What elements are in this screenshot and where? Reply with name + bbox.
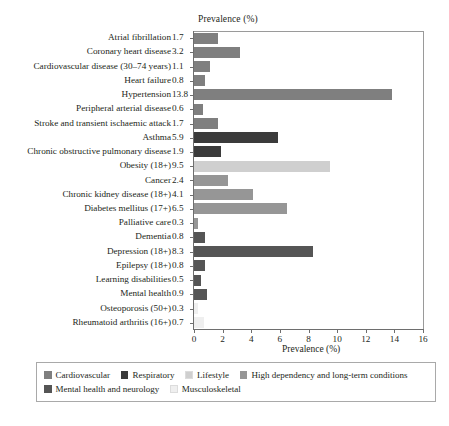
legend-swatch-icon <box>170 385 178 393</box>
legend-swatch-icon <box>44 371 52 379</box>
category-value: 1.9 <box>172 146 191 157</box>
bar-row <box>193 102 424 116</box>
bar-row <box>193 259 424 273</box>
bar-row <box>193 287 424 301</box>
category-value-column: 1.73.21.10.813.80.61.75.91.99.52.44.16.5… <box>172 31 192 330</box>
y-axis-tick <box>190 38 193 39</box>
category-label: Obesity (18+) <box>1 160 171 171</box>
bar-row <box>193 188 424 202</box>
legend-label: Musculoskeletal <box>182 384 241 394</box>
bar <box>194 289 207 300</box>
category-value: 13.8 <box>172 89 191 100</box>
category-value: 0.7 <box>172 317 191 328</box>
x-axis-tick-label: 14 <box>385 334 403 344</box>
y-axis-tick <box>190 294 193 295</box>
bar-row <box>193 230 424 244</box>
category-label: Peripheral arterial disease <box>1 103 171 114</box>
category-value: 0.5 <box>172 274 191 285</box>
bar-row <box>193 159 424 173</box>
category-label: Mental health <box>1 288 171 299</box>
category-value: 2.4 <box>172 175 191 186</box>
legend-swatch-icon <box>240 371 248 379</box>
legend-swatch-icon <box>44 385 52 393</box>
x-axis-tick-label: 0 <box>185 334 203 344</box>
y-axis-tick <box>190 152 193 153</box>
legend-label: Lifestyle <box>197 370 229 380</box>
category-label: Depression (18+) <box>1 246 171 257</box>
bar <box>194 61 210 72</box>
legend-item[interactable]: Cardiovascular <box>44 370 110 380</box>
category-value: 0.6 <box>172 103 191 114</box>
bar-row <box>193 59 424 73</box>
category-value: 0.3 <box>172 217 191 228</box>
x-axis-tick-label: 4 <box>242 334 260 344</box>
legend-item[interactable]: High dependency and long-term conditions <box>240 370 407 380</box>
legend-item[interactable]: Musculoskeletal <box>170 384 241 394</box>
bar-row <box>193 173 424 187</box>
category-value: 0.8 <box>172 75 191 86</box>
category-label: Atrial fibrillation <box>1 32 171 43</box>
legend-swatch-icon <box>121 371 129 379</box>
bar <box>194 203 287 214</box>
category-label: Chronic obstructive pulmonary disease <box>1 146 171 157</box>
y-axis-tick <box>190 52 193 53</box>
bar-row <box>193 116 424 130</box>
bar <box>194 317 204 328</box>
category-value: 8.3 <box>172 246 191 257</box>
x-axis-tick <box>394 330 395 333</box>
bar <box>194 175 228 186</box>
category-value: 4.1 <box>172 189 191 200</box>
bar <box>194 118 218 129</box>
bar <box>194 246 313 257</box>
legend: CardiovascularRespiratoryLifestyleHigh d… <box>36 362 436 402</box>
y-axis-tick <box>190 323 193 324</box>
bar-row <box>193 216 424 230</box>
x-axis-tick <box>223 330 224 333</box>
legend-item[interactable]: Lifestyle <box>185 370 229 380</box>
bar <box>194 303 198 314</box>
x-axis-tick <box>251 330 252 333</box>
bar <box>194 104 203 115</box>
category-value: 0.8 <box>172 231 191 242</box>
category-label: Chronic kidney disease (18+) <box>1 189 171 200</box>
bar <box>194 189 253 200</box>
y-axis-tick <box>190 309 193 310</box>
category-value: 5.9 <box>172 132 191 143</box>
category-value: 6.5 <box>172 203 191 214</box>
bar <box>194 47 240 58</box>
bar-row <box>193 45 424 59</box>
legend-row: Mental health and neurologyMusculoskelet… <box>44 382 428 396</box>
bar <box>194 260 205 271</box>
legend-label: Mental health and neurology <box>56 384 160 394</box>
bar <box>194 275 201 286</box>
y-axis-tick <box>190 280 193 281</box>
legend-item[interactable]: Respiratory <box>121 370 175 380</box>
y-axis-tick <box>190 237 193 238</box>
legend-label: Respiratory <box>132 370 174 380</box>
category-label: Epilepsy (18+) <box>1 260 171 271</box>
bar-row <box>193 273 424 287</box>
legend-swatch-icon <box>185 371 193 379</box>
category-label: Cancer <box>1 175 171 186</box>
category-label: Asthma <box>1 132 171 143</box>
legend-label: Cardiovascular <box>56 370 110 380</box>
legend-item[interactable]: Mental health and neurology <box>44 384 159 394</box>
category-value: 9.5 <box>172 160 191 171</box>
category-label: Coronary heart disease <box>1 46 171 57</box>
caption-strip <box>0 412 449 424</box>
x-axis-tick <box>337 330 338 333</box>
bar <box>194 161 330 172</box>
bar <box>194 132 278 143</box>
y-axis-tick <box>190 195 193 196</box>
y-axis-tick <box>190 109 193 110</box>
legend-label: High dependency and long-term conditions <box>251 370 407 380</box>
y-axis-tick <box>190 180 193 181</box>
category-value: 0.3 <box>172 303 191 314</box>
bar-row <box>193 145 424 159</box>
y-axis-tick <box>190 95 193 96</box>
category-label: Diabetes mellitus (17+) <box>1 203 171 214</box>
y-axis-tick <box>190 124 193 125</box>
y-axis-tick <box>190 266 193 267</box>
bar-row <box>193 316 424 330</box>
category-label: Osteoporosis (50+) <box>1 303 171 314</box>
